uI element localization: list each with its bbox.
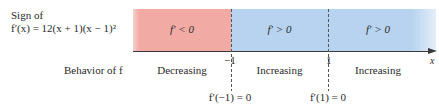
region-3-behavior: Increasing [328,64,428,76]
behavior-label: Behavior of f [64,64,123,76]
region-3-sign: f′ > 0 [328,23,428,35]
region-1-sign: f′ < 0 [133,23,231,35]
x-axis [133,51,430,52]
region-1-behavior: Decreasing [133,64,231,76]
axis-variable: x [430,55,434,67]
region-2-sign: f′ > 0 [231,23,328,35]
critical-point-neg1: f′(−1) = 0 [190,91,270,103]
critical-point-1: f′(1) = 0 [293,91,363,103]
axis-arrow-icon [428,48,437,54]
critical-line-1 [328,9,329,92]
sign-label-line1: Sign of [11,9,43,21]
derivative-formula: f′(x) = 12(x + 1)(x − 1)² [11,22,116,34]
region-2-behavior: Increasing [231,64,328,76]
critical-line-neg1 [231,9,232,92]
